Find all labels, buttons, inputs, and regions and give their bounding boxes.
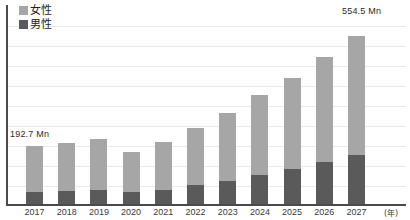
bar-segment-female[interactable]: [316, 57, 333, 161]
bar-segment-female[interactable]: [251, 95, 268, 175]
bar-group[interactable]: [155, 142, 172, 204]
bars-layer: [0, 0, 410, 220]
bar-segment-male[interactable]: [187, 185, 204, 204]
x-axis-tick-label: 2026: [310, 207, 338, 217]
x-axis-tick-labels: 2017201820192020202120222023202420252026…: [0, 207, 410, 220]
x-axis-unit-label: (年): [384, 207, 398, 218]
x-axis-tick-label: 2024: [246, 207, 274, 217]
bar-segment-female[interactable]: [284, 78, 301, 169]
bar-segment-male[interactable]: [123, 192, 140, 204]
bar-group[interactable]: [187, 128, 204, 204]
x-axis-tick-label: 2027: [343, 207, 371, 217]
bar-group[interactable]: [251, 95, 268, 204]
bar-segment-male[interactable]: [251, 175, 268, 204]
bar-segment-female[interactable]: [348, 36, 365, 155]
bar-segment-female[interactable]: [26, 146, 43, 193]
bar-group[interactable]: [316, 57, 333, 204]
bar-group[interactable]: [219, 113, 236, 204]
x-axis-tick-label: 2020: [117, 207, 145, 217]
stacked-bar-chart: 192.7 Mn 554.5 Mn 女性 男性 2017201820192020…: [0, 0, 410, 220]
legend-swatch-female: [19, 6, 28, 15]
x-axis-tick-label: 2017: [21, 207, 49, 217]
bar-segment-male[interactable]: [219, 181, 236, 204]
bar-segment-female[interactable]: [90, 139, 107, 189]
bar-group[interactable]: [348, 36, 365, 204]
x-axis-tick-label: 2025: [278, 207, 306, 217]
bar-group[interactable]: [58, 143, 75, 204]
bar-segment-female[interactable]: [123, 152, 140, 193]
x-axis-tick-label: 2019: [85, 207, 113, 217]
x-axis-tick-label: 2018: [53, 207, 81, 217]
bar-group[interactable]: [284, 78, 301, 204]
bar-group[interactable]: [123, 152, 140, 204]
legend-item-male[interactable]: 男性: [19, 18, 52, 31]
x-axis-tick-label: 2022: [182, 207, 210, 217]
legend-swatch-male: [19, 20, 28, 29]
bar-group[interactable]: [26, 146, 43, 204]
bar-segment-male[interactable]: [284, 169, 301, 204]
bar-segment-male[interactable]: [155, 190, 172, 204]
bar-segment-male[interactable]: [58, 191, 75, 204]
bar-segment-male[interactable]: [348, 155, 365, 204]
bar-segment-female[interactable]: [187, 128, 204, 186]
legend-label-female: 女性: [30, 5, 52, 16]
value-label-last: 554.5 Mn: [342, 6, 381, 16]
bar-segment-male[interactable]: [26, 192, 43, 204]
x-axis-tick-label: 2023: [214, 207, 242, 217]
legend-item-female[interactable]: 女性: [19, 4, 52, 17]
bar-group[interactable]: [90, 139, 107, 204]
legend: 女性 男性: [19, 4, 52, 31]
value-label-first: 192.7 Mn: [10, 129, 49, 139]
bar-segment-male[interactable]: [316, 162, 333, 204]
bar-segment-male[interactable]: [90, 190, 107, 204]
bar-segment-female[interactable]: [58, 143, 75, 191]
bar-segment-female[interactable]: [155, 142, 172, 190]
x-axis-tick-label: 2021: [149, 207, 177, 217]
legend-label-male: 男性: [30, 19, 52, 30]
bar-segment-female[interactable]: [219, 113, 236, 182]
